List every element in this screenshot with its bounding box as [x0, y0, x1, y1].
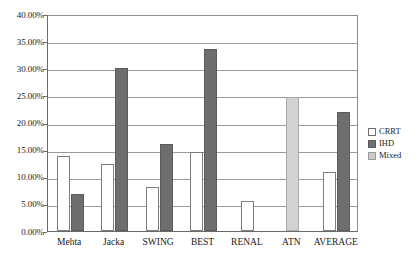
legend-item-ihd: IHD	[368, 138, 416, 149]
legend-item-crrt: CRRT	[368, 126, 416, 137]
bar-average-ihd	[337, 112, 350, 231]
x-axis-label-jacka: Jacka	[91, 236, 135, 248]
legend-swatch-icon	[368, 140, 376, 148]
gridline	[48, 97, 357, 98]
y-axis-tick-label: 35.00%	[0, 38, 44, 47]
bar-atn-mixed	[286, 97, 299, 231]
gridline	[48, 70, 357, 71]
bar-chart: 0.00%5.00%10.00%15.00%20.00%25.00%30.00%…	[0, 0, 416, 273]
bar-best-crrt	[190, 152, 203, 231]
y-axis-tick-label: 40.00%	[0, 11, 44, 20]
x-axis-label-atn: ATN	[269, 236, 313, 248]
y-axis: 0.00%5.00%10.00%15.00%20.00%25.00%30.00%…	[0, 0, 44, 273]
legend-label: IHD	[379, 139, 394, 148]
x-axis: MehtaJackaSWINGBESTRENALATNAVERAGE	[47, 236, 358, 256]
y-axis-tick-label: 30.00%	[0, 65, 44, 74]
legend-item-mixed: Mixed	[368, 150, 416, 161]
bar-renal-crrt	[241, 201, 254, 231]
legend-label: CRRT	[379, 127, 401, 136]
gridline	[48, 125, 357, 126]
y-axis-tick-label: 10.00%	[0, 173, 44, 182]
gridline	[48, 43, 357, 44]
bar-swing-ihd	[160, 144, 173, 231]
bar-swing-crrt	[146, 187, 159, 231]
x-axis-label-swing: SWING	[136, 236, 180, 248]
bar-average-crrt	[323, 172, 336, 231]
y-axis-tick-label: 25.00%	[0, 92, 44, 101]
bar-mehta-ihd	[71, 194, 84, 231]
bar-best-ihd	[204, 49, 217, 231]
plot-area	[47, 15, 358, 232]
x-axis-label-renal: RENAL	[225, 236, 269, 248]
x-axis-label-mehta: Mehta	[47, 236, 91, 248]
legend-label: Mixed	[379, 151, 401, 160]
bar-mehta-crrt	[57, 156, 70, 231]
y-axis-tick-label: 20.00%	[0, 119, 44, 128]
bar-jacka-ihd	[115, 68, 128, 231]
legend-swatch-icon	[368, 152, 376, 160]
legend-swatch-icon	[368, 128, 376, 136]
y-axis-tick-label: 0.00%	[0, 228, 44, 237]
x-axis-label-best: BEST	[180, 236, 224, 248]
chart-legend: CRRTIHDMixed	[368, 126, 416, 162]
bar-jacka-crrt	[101, 164, 114, 231]
y-axis-tick-label: 5.00%	[0, 200, 44, 209]
x-axis-label-average: AVERAGE	[314, 236, 358, 248]
y-axis-tick	[43, 232, 47, 233]
y-axis-tick-label: 15.00%	[0, 146, 44, 155]
